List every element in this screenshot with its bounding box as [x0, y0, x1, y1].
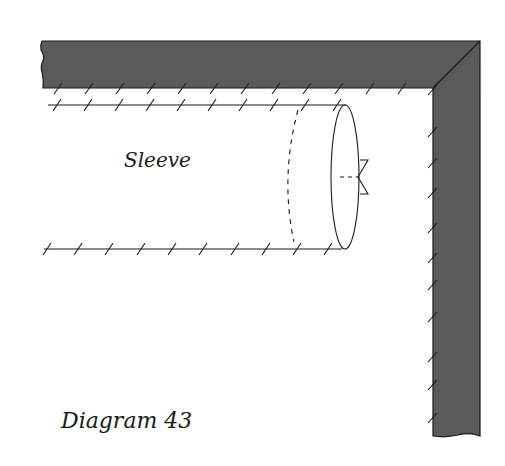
sleeve-label: Sleeve [124, 148, 191, 172]
sleeve-end-ellipse [331, 105, 359, 249]
sleeve-hidden-arc [288, 110, 298, 242]
wall-body [41, 41, 480, 437]
sleeve-diagram: Sleeve Diagram 43 [0, 0, 505, 466]
wall [41, 41, 480, 437]
diagram-caption: Diagram 43 [60, 408, 192, 433]
sleeve [43, 99, 368, 255]
